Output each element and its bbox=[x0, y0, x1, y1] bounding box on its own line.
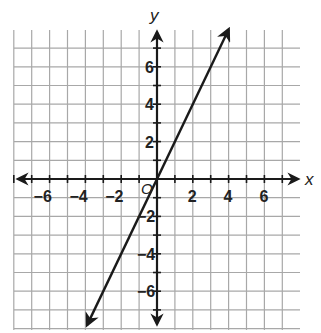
y-axis-label: y bbox=[149, 6, 160, 25]
y-tick-label: −4 bbox=[137, 246, 155, 263]
y-tick-label: 4 bbox=[145, 96, 154, 113]
y-tick-label: 6 bbox=[145, 59, 154, 76]
y-tick-label: −6 bbox=[137, 283, 155, 300]
y-tick-label: 2 bbox=[145, 134, 154, 151]
x-tick-label: −4 bbox=[69, 188, 87, 205]
x-tick-label: 4 bbox=[224, 188, 233, 205]
x-tick-label: 6 bbox=[259, 188, 268, 205]
y-tick-label: −2 bbox=[137, 208, 155, 225]
origin-label: O bbox=[141, 180, 153, 197]
x-axis-label: x bbox=[304, 170, 314, 189]
x-tick-label: 2 bbox=[188, 188, 197, 205]
x-tick-label: −2 bbox=[105, 188, 123, 205]
x-tick-label: −6 bbox=[34, 188, 52, 205]
coordinate-plane: −6−4−2246−6−4−2246 x y O bbox=[0, 0, 321, 333]
